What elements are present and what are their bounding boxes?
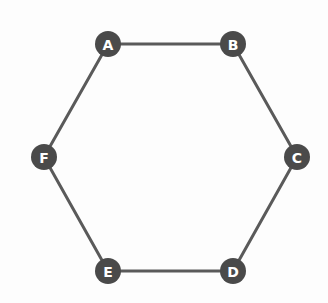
edge-f-a xyxy=(44,44,108,157)
node-f[interactable]: F xyxy=(31,144,57,170)
node-label-a: A xyxy=(103,37,114,53)
node-label-c: C xyxy=(292,150,302,166)
node-b[interactable]: B xyxy=(220,31,246,57)
node-label-b: B xyxy=(228,37,239,53)
graph-canvas: ABCDEF xyxy=(0,0,328,303)
edge-e-f xyxy=(44,157,108,271)
node-e[interactable]: E xyxy=(95,258,121,284)
edge-b-c xyxy=(233,44,297,157)
node-label-d: D xyxy=(227,264,239,280)
node-a[interactable]: A xyxy=(95,31,121,57)
graph-diagram: ABCDEF xyxy=(0,0,328,303)
node-d[interactable]: D xyxy=(220,258,246,284)
node-c[interactable]: C xyxy=(284,144,310,170)
node-label-f: F xyxy=(39,150,49,166)
edge-c-d xyxy=(233,157,297,271)
node-label-e: E xyxy=(103,264,113,280)
nodes-layer: ABCDEF xyxy=(31,31,310,284)
edges-layer xyxy=(44,44,297,271)
